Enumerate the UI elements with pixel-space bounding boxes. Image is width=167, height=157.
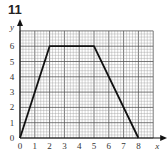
line-chart: 0123456780123456xy	[0, 0, 167, 157]
svg-text:3: 3	[10, 87, 15, 97]
svg-text:y: y	[9, 22, 14, 32]
svg-text:2: 2	[10, 102, 15, 112]
svg-text:6: 6	[107, 141, 112, 151]
svg-text:5: 5	[10, 57, 15, 67]
svg-text:x: x	[154, 141, 159, 151]
svg-text:5: 5	[92, 141, 97, 151]
svg-text:4: 4	[77, 141, 82, 151]
svg-text:3: 3	[62, 141, 67, 151]
svg-text:1: 1	[33, 141, 38, 151]
svg-text:0: 0	[10, 133, 15, 143]
svg-text:2: 2	[47, 141, 52, 151]
svg-text:0: 0	[18, 141, 23, 151]
svg-text:7: 7	[121, 141, 126, 151]
svg-text:1: 1	[10, 118, 15, 128]
svg-text:6: 6	[10, 41, 15, 51]
svg-text:4: 4	[10, 72, 15, 82]
svg-text:8: 8	[136, 141, 141, 151]
